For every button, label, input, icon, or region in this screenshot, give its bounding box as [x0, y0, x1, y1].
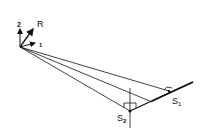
s2-point: [129, 110, 132, 113]
s2-label: S2: [117, 113, 127, 124]
axis-r-label: R: [37, 19, 44, 29]
s1-point: [168, 90, 170, 92]
s1-label: S1: [172, 96, 182, 107]
ray-to-s1: [20, 47, 169, 91]
axis-1-label: 1: [39, 42, 43, 48]
ray-to-mid: [20, 47, 152, 102]
diagram-canvas: 2 R 1 S1 S2: [0, 0, 202, 139]
rays: [20, 47, 169, 111]
axis-2-label: 2: [17, 21, 21, 28]
ray-to-s2: [20, 47, 130, 111]
axes-triad: [20, 29, 35, 47]
